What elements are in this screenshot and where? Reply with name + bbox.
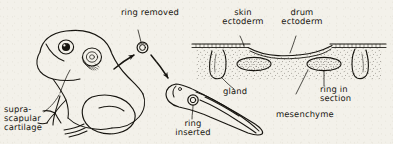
label-supra-scapular-cartilage: supra- scapular cartilage xyxy=(4,105,82,133)
removed-ring xyxy=(137,30,148,53)
leader-drum-ectoderm xyxy=(290,36,296,53)
label-drum-ectoderm: drum ectoderm xyxy=(262,8,342,26)
label-ring-removed: ring removed xyxy=(104,8,196,17)
label-gland: gland xyxy=(223,87,269,96)
arrow-ring-to-tadpole xyxy=(151,55,168,78)
tympanum xyxy=(82,48,102,70)
label-ring-inserted: ring inserted xyxy=(152,119,234,137)
label-mesenchyme: mesenchyme xyxy=(276,110,356,119)
leader-ring-inserted xyxy=(192,106,193,120)
arrow-frog-to-ring xyxy=(114,55,134,69)
label-ring-in-section: ring in section xyxy=(320,85,382,103)
inserted-ring xyxy=(188,95,198,105)
leader-ring-removed xyxy=(138,30,141,42)
leader-supra-scapular xyxy=(60,70,70,93)
